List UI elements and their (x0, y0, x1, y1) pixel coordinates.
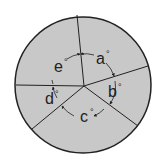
degree-c: ° (90, 107, 94, 117)
circle-diagram: a ° b ° c ° d ° e ° (0, 0, 158, 162)
angle-label-b: b (108, 83, 117, 100)
angle-label-d: d (45, 90, 54, 107)
degree-d: ° (55, 89, 59, 99)
degree-b: ° (118, 82, 122, 92)
angle-label-c: c (80, 108, 88, 125)
degree-a: ° (106, 49, 110, 59)
degree-e: ° (64, 57, 68, 67)
angle-label-e: e (54, 58, 63, 75)
angle-label-a: a (96, 50, 105, 67)
